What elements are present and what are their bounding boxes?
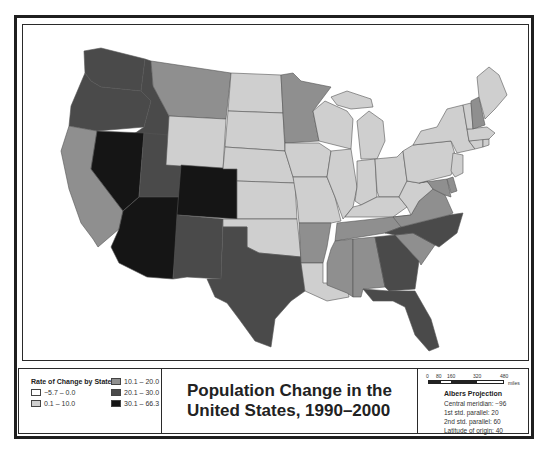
- scale-tick: 480: [500, 373, 508, 379]
- legend-label: 20.1 – 30.0: [124, 389, 159, 396]
- scale-tick: 320: [473, 373, 481, 379]
- state-colorado[interactable]: [177, 165, 237, 219]
- state-rhode-island[interactable]: [483, 139, 489, 147]
- projection-panel: 0 80 160 320 480 miles Albers Projection…: [418, 369, 528, 433]
- projection-line: Central meridian: −96: [444, 400, 506, 407]
- legend-row: Rate of Change by State −5.7 – 0.0 0.1 –…: [18, 368, 529, 434]
- projection-line: Latitude of origin: 40: [444, 427, 503, 434]
- state-north-dakota[interactable]: [228, 73, 283, 113]
- legend-item: 10.1 – 20.0: [111, 378, 159, 385]
- legend-item: −5.7 – 0.0: [31, 389, 75, 396]
- state-new-mexico[interactable]: [173, 215, 223, 279]
- projection-line: 2nd std. parallel: 60: [444, 418, 501, 425]
- state-wyoming[interactable]: [166, 116, 226, 169]
- map-panel: [22, 24, 529, 361]
- legend-label: −5.7 – 0.0: [44, 389, 75, 396]
- legend-title: Rate of Change by State: [31, 378, 112, 385]
- map-title: Population Change in the United States, …: [187, 381, 392, 421]
- state-pennsylvania[interactable]: [403, 141, 457, 183]
- legend: Rate of Change by State −5.7 – 0.0 0.1 –…: [19, 369, 162, 433]
- title-panel: Population Change in the United States, …: [162, 369, 418, 433]
- scale-bar: [428, 380, 504, 384]
- legend-label: 10.1 – 20.0: [124, 378, 159, 385]
- map-title-line2: United States, 1990–2000: [187, 401, 392, 421]
- legend-swatch: [111, 400, 121, 407]
- legend-item: 20.1 – 30.0: [111, 389, 159, 396]
- legend-item: 0.1 – 10.0: [31, 400, 75, 407]
- state-south-dakota[interactable]: [225, 111, 285, 151]
- state-florida[interactable]: [363, 289, 439, 351]
- scale-unit: miles: [508, 380, 520, 386]
- state-indiana[interactable]: [355, 159, 377, 205]
- map-title-line1: Population Change in the: [187, 381, 392, 401]
- state-new-jersey[interactable]: [451, 153, 463, 177]
- projection-line: 1st std. parallel: 20: [444, 409, 499, 416]
- legend-swatch: [111, 389, 121, 396]
- state-iowa[interactable]: [285, 143, 331, 177]
- legend-label: 30.1 – 66.3: [124, 400, 159, 407]
- scale-labels: 0 80 160 320 480: [426, 373, 510, 380]
- state-kansas[interactable]: [237, 181, 297, 219]
- projection-title: Albers Projection: [418, 390, 528, 397]
- scale-tick: 80: [436, 373, 442, 379]
- scale-tick: 0: [426, 373, 429, 379]
- legend-swatch: [111, 378, 121, 385]
- scale-tick: 160: [447, 373, 455, 379]
- state-michigan[interactable]: [357, 111, 385, 159]
- legend-label: 0.1 – 10.0: [44, 400, 75, 407]
- us-map: [23, 25, 530, 362]
- legend-item: 30.1 – 66.3: [111, 400, 159, 407]
- legend-swatch: [31, 400, 41, 407]
- state-arkansas[interactable]: [299, 223, 331, 263]
- state-wisconsin[interactable]: [313, 101, 353, 149]
- legend-swatch: [31, 389, 41, 396]
